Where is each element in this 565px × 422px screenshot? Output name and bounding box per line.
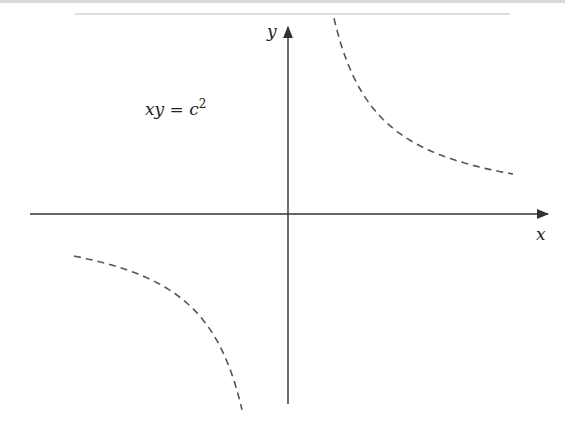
equation-label: xy = c2 [145,97,206,119]
hyperbola-diagram: xy = c2 y x [0,0,565,422]
hyperbola-lower-branch [74,256,242,410]
y-axis-label: y [266,21,277,41]
hyperbola-upper-branch [334,18,513,174]
x-axis-label: x [536,224,546,244]
